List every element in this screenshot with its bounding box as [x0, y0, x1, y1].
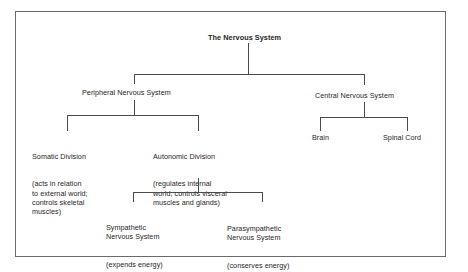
connector-to-autonomic — [198, 115, 199, 131]
node-peripheral-nervous-system: Peripheral Nervous System — [82, 88, 171, 97]
autonomic-description: (regulates internal world; controls visc… — [153, 179, 227, 207]
connector-to-brain — [320, 117, 321, 131]
node-autonomic-division: Autonomic Division (regulates internal w… — [153, 133, 227, 217]
connector-level1-bar — [134, 74, 365, 75]
connector-autonomic-bar — [133, 192, 263, 193]
node-brain: Brain — [312, 133, 329, 142]
node-parasympathetic-nervous-system: Parasympathetic Nervous System (conserve… — [227, 205, 289, 272]
connector-to-peripheral — [134, 74, 135, 84]
parasympathetic-label: Parasympathetic Nervous System — [227, 224, 289, 243]
connector-to-spinal-cord — [407, 117, 408, 131]
sympathetic-description: (expends energy) — [106, 260, 163, 269]
connector-to-sympathetic — [133, 192, 134, 202]
node-central-nervous-system: Central Nervous System — [315, 91, 394, 100]
node-nervous-system: The Nervous System — [208, 33, 281, 42]
somatic-description: (acts in relation to external world; con… — [32, 179, 88, 216]
somatic-label: Somatic Division — [32, 152, 88, 161]
connector-autonomic-down — [198, 178, 199, 192]
connector-root-down — [248, 43, 249, 74]
connector-to-central — [364, 74, 365, 85]
connector-central-bar — [320, 117, 408, 118]
node-spinal-cord: Spinal Cord — [383, 133, 421, 142]
connector-to-somatic — [67, 115, 68, 131]
parasympathetic-description: (conserves energy) — [227, 261, 289, 270]
connector-peripheral-down — [134, 100, 135, 115]
connector-central-down — [364, 102, 365, 117]
node-sympathetic-nervous-system: Sympathetic Nervous System (expends ener… — [106, 204, 163, 272]
sympathetic-label: Sympathetic Nervous System — [106, 223, 163, 242]
autonomic-label: Autonomic Division — [153, 152, 227, 161]
node-somatic-division: Somatic Division (acts in relation to ex… — [32, 133, 88, 226]
connector-to-parasympathetic — [262, 192, 263, 202]
connector-peripheral-bar — [67, 115, 199, 116]
